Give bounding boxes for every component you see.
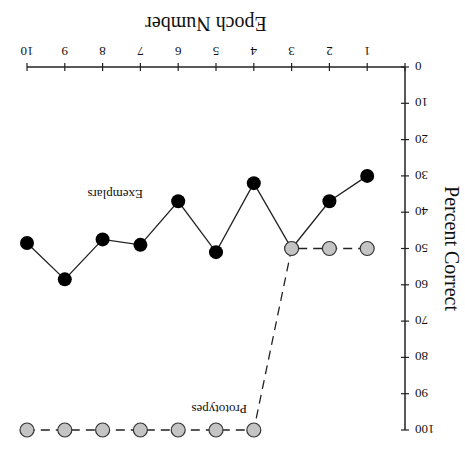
x-tick-label: 9 (62, 44, 69, 59)
x-tick-label: 5 (213, 44, 220, 59)
y-tick-label: 20 (415, 132, 428, 147)
series-lines (27, 176, 367, 430)
y-tick-label: 30 (415, 168, 428, 183)
y-tick-label: 100 (415, 422, 435, 437)
axes: 123456789100102030405060708090100 (21, 44, 435, 437)
prototypes-point (20, 423, 34, 437)
y-tick-label: 80 (415, 349, 428, 364)
exemplars-point (96, 232, 110, 246)
x-tick-label: 2 (326, 44, 333, 59)
x-tick-label: 6 (174, 44, 181, 59)
y-tick-label: 10 (415, 95, 428, 110)
series-points (20, 169, 374, 437)
exemplars-point (209, 245, 223, 259)
x-tick-label: 8 (99, 44, 106, 59)
x-axis-title: Epoch Number (145, 12, 267, 35)
prototypes-point (58, 423, 72, 437)
x-tick-label: 1 (364, 44, 371, 59)
series-label-prototypes: Prototypes (191, 402, 247, 417)
labels: Epoch Number Percent Correct Exemplars P… (87, 12, 463, 417)
exemplars-point (247, 176, 261, 190)
prototypes-point (171, 423, 185, 437)
y-tick-label: 0 (415, 59, 422, 74)
prototypes-point (247, 423, 261, 437)
prototypes-point (96, 423, 110, 437)
y-tick-label: 70 (415, 313, 428, 328)
exemplars-point (20, 236, 34, 250)
y-tick-label: 40 (415, 204, 428, 219)
exemplars-point (58, 272, 72, 286)
x-tick-label: 7 (137, 44, 144, 59)
line-chart: 123456789100102030405060708090100 Epoch … (0, 0, 465, 452)
y-tick-label: 50 (415, 241, 428, 256)
y-axis-title: Percent Correct (441, 186, 463, 311)
x-tick-label: 4 (250, 44, 257, 59)
prototypes-point (285, 242, 299, 256)
exemplars-point (171, 194, 185, 208)
x-tick-label: 3 (288, 44, 295, 59)
exemplars-point (322, 194, 336, 208)
exemplars-point (360, 169, 374, 183)
exemplars-point (133, 238, 147, 252)
series-label-exemplars: Exemplars (87, 187, 143, 202)
prototypes-point (133, 423, 147, 437)
chart-container: 123456789100102030405060708090100 Epoch … (0, 0, 465, 452)
prototypes-point (209, 423, 223, 437)
y-tick-label: 90 (415, 386, 428, 401)
prototypes-point (360, 242, 374, 256)
x-tick-label: 10 (21, 44, 34, 59)
exemplars-line (27, 176, 367, 279)
prototypes-point (322, 242, 336, 256)
y-tick-label: 60 (415, 277, 428, 292)
